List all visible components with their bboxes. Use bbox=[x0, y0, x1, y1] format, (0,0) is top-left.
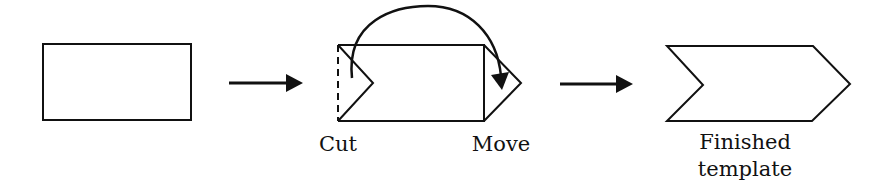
finished-chevron-template bbox=[667, 46, 850, 121]
arrow-step2-to-step3 bbox=[560, 75, 633, 93]
cut-triangle bbox=[338, 45, 373, 121]
move-arc-arrow bbox=[351, 6, 501, 78]
rectangle-body bbox=[338, 45, 484, 121]
template-label: template bbox=[690, 157, 800, 181]
finished-label: Finished bbox=[690, 130, 800, 154]
cut-move-figure bbox=[338, 6, 521, 121]
arrow-step1-to-step2 bbox=[229, 74, 303, 92]
move-label: Move bbox=[462, 132, 540, 156]
cut-label: Cut bbox=[312, 132, 364, 156]
original-rectangle bbox=[43, 44, 191, 120]
move-arrowhead bbox=[491, 72, 509, 90]
